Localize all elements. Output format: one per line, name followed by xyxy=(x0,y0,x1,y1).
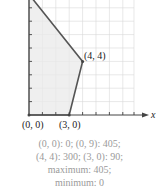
label-point-3-0: (3, 0) xyxy=(59,120,81,130)
caption-line-1: (0, 0): 0; (0, 9): 405; xyxy=(0,137,159,150)
label-point-4-4: (4, 4) xyxy=(84,51,106,61)
label-point-0-0: (0, 0) xyxy=(22,120,44,130)
caption-line-4: minimum: 0 xyxy=(0,176,159,189)
feasible-region-plot xyxy=(0,0,159,130)
x-axis-label: x xyxy=(151,110,155,120)
vertex-3-0 xyxy=(68,114,71,117)
caption-line-2: (4, 4): 300; (3, 0): 90; xyxy=(0,150,159,163)
x-axis-arrow-icon xyxy=(142,113,149,118)
objective-values-caption: (0, 0): 0; (0, 9): 405; (4, 4): 300; (3,… xyxy=(0,137,159,189)
caption-line-3: maximum: 405; xyxy=(0,163,159,176)
vertex-0-0 xyxy=(28,114,31,117)
